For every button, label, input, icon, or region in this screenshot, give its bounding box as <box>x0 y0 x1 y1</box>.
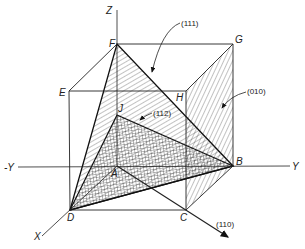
vertex-h: H <box>176 92 184 103</box>
axis-label-z: Z <box>105 5 113 16</box>
axis-label-neg-y: -Y <box>4 162 15 173</box>
vertex-e: E <box>59 87 66 98</box>
vertex-d: D <box>67 212 74 223</box>
direction-label-110: (110) <box>216 220 234 229</box>
plane-label-010: (010) <box>247 87 266 96</box>
axis-label-x: X <box>33 231 41 242</box>
plane-label-111: (111) <box>181 19 199 28</box>
vertex-g: G <box>235 34 243 45</box>
vertex-j: J <box>117 103 124 114</box>
plane-010 <box>186 44 233 210</box>
vertex-f: F <box>109 38 116 49</box>
unit-cell-diagram: Z Y -Y X F G E H J A B C D (111) (010) (… <box>0 0 305 249</box>
vertex-b: B <box>236 156 243 167</box>
axis-label-y: Y <box>292 161 300 172</box>
plane-label-112: (112) <box>153 109 171 118</box>
vertex-c: C <box>180 212 188 223</box>
vertex-a: A <box>110 168 118 179</box>
